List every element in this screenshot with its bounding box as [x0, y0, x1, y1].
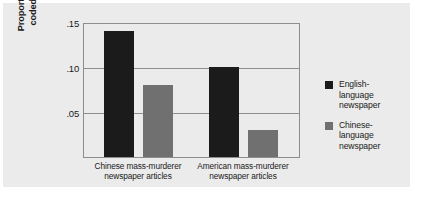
- bar-american-english: [209, 67, 239, 157]
- plot-area: [83, 23, 300, 158]
- legend: English- language newspaper Chinese- lan…: [325, 79, 380, 161]
- bar-american-chinese: [248, 130, 278, 157]
- y-tick-label: .10: [55, 63, 79, 74]
- legend-item-chinese: Chinese- language newspaper: [325, 120, 380, 152]
- y-axis-tick-labels: .15 .10 .05: [55, 3, 79, 187]
- y-axis-title: Proportion of attributions coded as disp…: [16, 0, 46, 47]
- x-category-label-chinese: Chinese mass-murderer newspaper articles: [78, 161, 198, 181]
- legend-label: Chinese- language newspaper: [339, 120, 380, 152]
- figure-panel: Proportion of attributions coded as disp…: [3, 3, 410, 187]
- y-tick-label: .15: [55, 18, 79, 29]
- legend-label: English- language newspaper: [339, 79, 380, 111]
- bar-chinese-chinese: [143, 85, 173, 157]
- legend-swatch-icon: [325, 81, 333, 89]
- legend-item-english: English- language newspaper: [325, 79, 380, 111]
- y-tick-label: .05: [55, 108, 79, 119]
- x-category-label-american: American mass-murderer newspaper article…: [183, 161, 303, 181]
- bar-chinese-english: [104, 31, 134, 157]
- legend-swatch-icon: [325, 122, 333, 130]
